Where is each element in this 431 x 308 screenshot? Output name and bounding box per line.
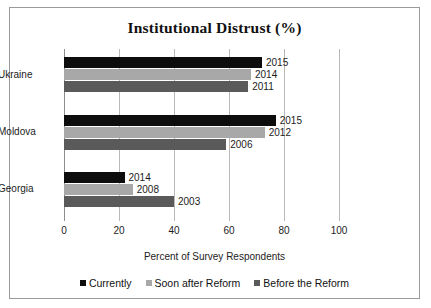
legend-swatch-icon: [80, 280, 86, 286]
category-label-georgia: Georgia: [0, 183, 58, 194]
bar-value-label: 2008: [137, 184, 159, 195]
bar-ukraine-soon-after-reform: [64, 69, 251, 80]
chart-frame: Institutional Distrust (%) 020406080100U…: [9, 7, 420, 299]
bar-value-label: 2015: [266, 57, 288, 68]
chart-title: Institutional Distrust (%): [10, 19, 419, 37]
bar-value-label: 2003: [178, 196, 200, 207]
x-tick-label-100: 100: [331, 225, 348, 236]
bar-moldova-currently: [64, 115, 276, 126]
bar-value-label: 2012: [269, 127, 291, 138]
x-tick-label-40: 40: [168, 225, 179, 236]
bar-value-label: 2006: [230, 139, 252, 150]
x-tick-label-20: 20: [113, 225, 124, 236]
legend-item-soon-after-reform: Soon after Reform: [146, 277, 241, 289]
bar-moldova-soon-after-reform: [64, 127, 265, 138]
bar-moldova-before-the-reform: [64, 139, 226, 150]
bar-georgia-currently: [64, 172, 125, 183]
gridline-100: [339, 49, 340, 221]
chart-legend: CurrentlySoon after ReformBefore the Ref…: [10, 277, 419, 289]
legend-swatch-icon: [254, 280, 260, 286]
x-tick-label-60: 60: [223, 225, 234, 236]
bar-ukraine-currently: [64, 57, 262, 68]
x-tick-label-0: 0: [61, 225, 67, 236]
legend-label: Before the Reform: [263, 277, 349, 289]
x-axis-title: Percent of Survey Respondents: [10, 251, 419, 262]
plot-area: 020406080100Ukraine201520142011Moldova20…: [64, 49, 339, 221]
legend-label: Soon after Reform: [155, 277, 241, 289]
legend-item-before-the-reform: Before the Reform: [254, 277, 349, 289]
bar-ukraine-before-the-reform: [64, 81, 248, 92]
bar-value-label: 2011: [252, 81, 274, 92]
bar-value-label: 2015: [280, 115, 302, 126]
bar-georgia-soon-after-reform: [64, 184, 133, 195]
category-label-moldova: Moldova: [0, 126, 58, 137]
bar-georgia-before-the-reform: [64, 196, 174, 207]
legend-label: Currently: [89, 277, 132, 289]
bar-value-label: 2014: [129, 172, 151, 183]
x-tick-label-80: 80: [278, 225, 289, 236]
legend-item-currently: Currently: [80, 277, 132, 289]
bar-value-label: 2014: [255, 69, 277, 80]
legend-swatch-icon: [146, 280, 152, 286]
category-label-ukraine: Ukraine: [0, 69, 58, 80]
